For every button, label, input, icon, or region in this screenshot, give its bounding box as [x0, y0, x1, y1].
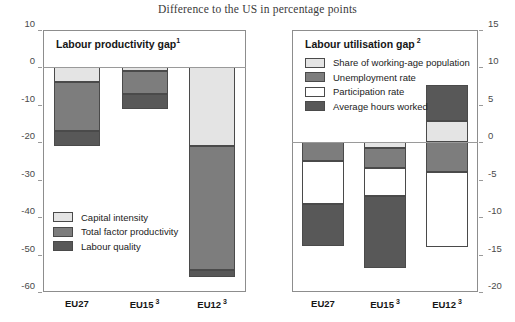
- category-label-footnote: 3: [223, 298, 227, 305]
- category-label-eu12: EU123: [432, 298, 462, 310]
- right-axis-tick-mark: [479, 105, 483, 106]
- category-label-eu27: EU27: [311, 298, 335, 309]
- legend-item: Share of working-age population: [305, 56, 470, 69]
- bar-segment[interactable]: [189, 270, 235, 277]
- left-axis-tick-mark: [38, 142, 42, 143]
- right-axis-tick-mark: [479, 142, 483, 143]
- right-panel: Labour utilisation gap2 Share of working…: [292, 30, 478, 292]
- legend-label: Participation rate: [333, 86, 404, 97]
- legend-item: Labour quality: [53, 240, 178, 253]
- bar-segment[interactable]: [189, 146, 235, 270]
- legend-item: Capital intensity: [53, 211, 178, 224]
- bar-segment[interactable]: [189, 67, 235, 146]
- legend-swatch: [305, 72, 325, 82]
- legend-swatch: [305, 87, 325, 97]
- left-axis-tick-mark: [38, 217, 42, 218]
- left-axis-tick-mark: [38, 180, 42, 181]
- bar-segment[interactable]: [426, 121, 468, 142]
- bar-segment[interactable]: [122, 71, 168, 93]
- legend-item: Participation rate: [305, 85, 470, 98]
- left-axis-tick-mark: [38, 292, 42, 293]
- bar-segment[interactable]: [54, 67, 100, 82]
- category-label-eu27: EU27: [65, 298, 89, 309]
- legend-swatch: [305, 101, 325, 111]
- right-panel-title: Labour utilisation gap2: [305, 37, 421, 50]
- bar-segment[interactable]: [426, 142, 468, 172]
- chart-figure: Difference to the US in percentage point…: [0, 0, 515, 322]
- left-panel-y-axis: 100-10-20-30-40-50-60: [2, 30, 42, 292]
- right-axis-tick-mark: [479, 217, 483, 218]
- right-legend: Share of working-age populationUnemploym…: [305, 56, 470, 114]
- left-axis-tick-mark: [38, 67, 42, 68]
- bar-segment[interactable]: [302, 161, 344, 204]
- bar-segment[interactable]: [54, 131, 100, 146]
- left-legend: Capital intensityTotal factor productivi…: [53, 211, 178, 255]
- legend-item: Unemployment rate: [305, 71, 470, 84]
- right-category-labels: EU27EU153EU123: [292, 298, 478, 314]
- right-axis-tick-mark: [479, 255, 483, 256]
- left-panel: Labour productivity gap1 Capital intensi…: [43, 30, 246, 292]
- right-axis-tick-mark: [479, 67, 483, 68]
- left-zero-line: [43, 67, 246, 68]
- bar-eu12[interactable]: [189, 30, 235, 292]
- right-zero-line: [292, 142, 478, 143]
- legend-swatch: [53, 212, 73, 222]
- left-panel-title-text: Labour productivity gap: [56, 38, 176, 50]
- left-panel-title: Labour productivity gap1: [56, 37, 180, 50]
- right-panel-y-axis: 151050-5-10-15-20: [479, 30, 515, 292]
- bar-segment[interactable]: [426, 172, 468, 247]
- right-panel-title-text: Labour utilisation gap: [305, 38, 415, 50]
- right-axis-tick-mark: [479, 180, 483, 181]
- legend-swatch: [53, 227, 73, 237]
- bar-segment[interactable]: [302, 204, 344, 245]
- legend-swatch: [53, 241, 73, 251]
- bar-segment[interactable]: [364, 196, 406, 268]
- category-label-footnote: 3: [396, 298, 400, 305]
- legend-label: Labour quality: [81, 241, 141, 252]
- legend-label: Capital intensity: [81, 212, 148, 223]
- category-label-eu15: EU153: [370, 298, 400, 310]
- bar-segment[interactable]: [54, 82, 100, 131]
- bar-segment[interactable]: [364, 168, 406, 196]
- right-axis-tick-mark: [479, 292, 483, 293]
- right-axis-tick-mark: [479, 30, 483, 31]
- left-axis-tick-mark: [38, 105, 42, 106]
- bar-segment[interactable]: [302, 142, 344, 161]
- legend-item: Average hours worked: [305, 100, 470, 113]
- legend-label: Share of working-age population: [333, 57, 470, 68]
- bar-segment[interactable]: [364, 148, 406, 168]
- bar-segment[interactable]: [122, 94, 168, 109]
- category-label-eu15: EU153: [130, 298, 160, 310]
- legend-label: Average hours worked: [333, 101, 428, 112]
- category-label-footnote: 3: [458, 298, 462, 305]
- right-panel-title-footnote: 2: [417, 37, 421, 44]
- left-axis-tick-mark: [38, 255, 42, 256]
- category-label-eu12: EU123: [197, 298, 227, 310]
- legend-label: Total factor productivity: [81, 226, 178, 237]
- left-panel-title-footnote: 1: [176, 37, 180, 44]
- legend-swatch: [305, 58, 325, 68]
- left-category-labels: EU27EU153EU123: [43, 298, 246, 314]
- legend-label: Unemployment rate: [333, 72, 416, 83]
- category-label-footnote: 3: [155, 298, 159, 305]
- legend-item: Total factor productivity: [53, 225, 178, 238]
- left-axis-tick-mark: [38, 30, 42, 31]
- figure-title: Difference to the US in percentage point…: [0, 3, 515, 15]
